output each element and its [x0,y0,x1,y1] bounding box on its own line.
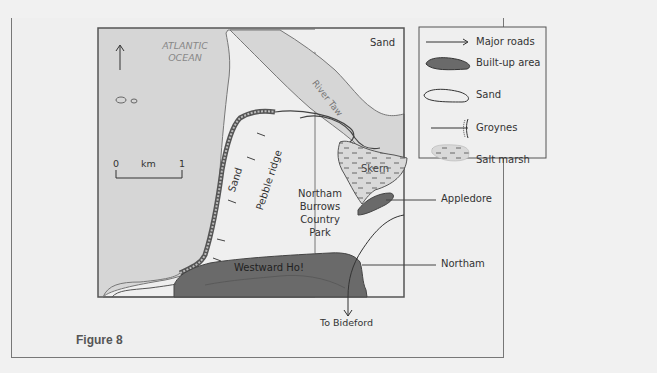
sand-beach-label: Sand [226,166,244,193]
scale-unit: km [141,158,156,169]
sand-top-label: Sand [370,37,395,48]
skern-label: Skern [361,163,389,174]
ocean-label: ATLANTIC OCEAN [145,40,225,64]
legend-label-built-up: Built-up area [476,57,540,68]
westward-ho-label: Westward Ho! [234,262,304,273]
appledore-label: Appledore [441,193,492,204]
park-label: Northam Burrows Country Park [280,187,360,239]
northam-label: Northam [441,258,485,269]
legend-label-salt-marsh: Salt marsh [476,154,530,165]
map-labels: ATLANTIC OCEAN Sand River Taw Sand Pebbl… [0,0,657,373]
river-label: River Taw [310,78,344,118]
scale-start: 0 [113,158,119,169]
figure-caption: Figure 8 [76,333,123,347]
bideford-label: To Bideford [320,317,373,328]
legend-label-roads: Major roads [476,36,535,47]
legend-label-sand: Sand [476,89,501,100]
scale-end: 1 [179,158,185,169]
legend-label-groynes: Groynes [476,122,517,133]
